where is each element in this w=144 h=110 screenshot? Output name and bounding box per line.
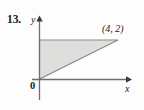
x-axis-arrow-icon <box>126 76 132 83</box>
shaded-triangle-region <box>40 40 119 79</box>
problem-number: 13. <box>7 14 21 26</box>
origin-label: 0 <box>30 81 35 92</box>
vertex-point-label: (4, 2) <box>102 24 124 34</box>
y-axis-label: y <box>31 15 35 25</box>
x-axis-label: x <box>125 84 129 94</box>
y-axis-arrow-icon <box>36 16 42 22</box>
figure-container: 13. y x 0 (4, 2) <box>0 0 144 110</box>
coordinate-plane-graphic <box>0 0 144 110</box>
